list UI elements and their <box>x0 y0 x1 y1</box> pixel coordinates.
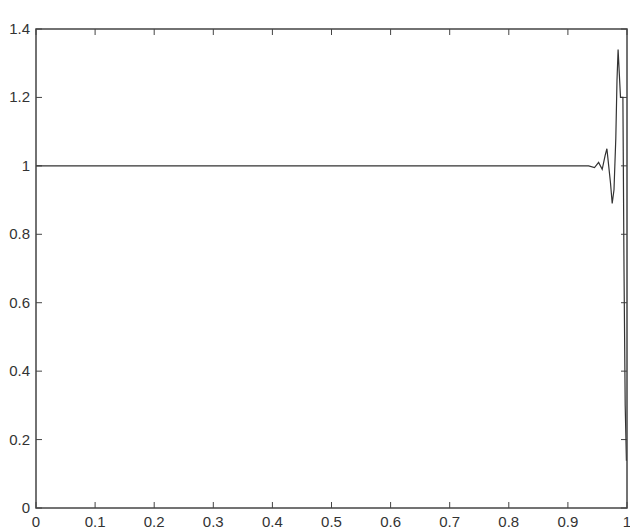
x-tick-label: 0.9 <box>557 513 578 530</box>
y-tick-label: 1.4 <box>9 20 30 37</box>
x-tick-label: 0.7 <box>439 513 460 530</box>
x-tick-label: 0.8 <box>498 513 519 530</box>
axes-box <box>36 29 627 508</box>
x-tick-label: 0.3 <box>203 513 224 530</box>
y-tick-label: 0.8 <box>9 225 30 242</box>
y-tick-label: 0.2 <box>9 431 30 448</box>
x-axis: 00.10.20.30.40.50.60.70.80.91 <box>32 29 630 530</box>
x-tick-label: 1 <box>623 513 630 530</box>
y-tick-label: 0.4 <box>9 362 30 379</box>
data-line <box>36 50 627 461</box>
x-tick-label: 0.1 <box>85 513 106 530</box>
y-axis: 00.20.40.60.811.21.4 <box>9 20 627 516</box>
y-tick-label: 1.2 <box>9 88 30 105</box>
y-tick-label: 0 <box>22 499 30 516</box>
x-tick-label: 0.4 <box>262 513 283 530</box>
x-tick-label: 0 <box>32 513 40 530</box>
x-tick-label: 0.2 <box>144 513 165 530</box>
y-tick-label: 1 <box>22 157 30 174</box>
y-tick-label: 0.6 <box>9 294 30 311</box>
x-tick-label: 0.6 <box>380 513 401 530</box>
line-chart: 00.10.20.30.40.50.60.70.80.91 00.20.40.6… <box>0 0 630 532</box>
x-tick-label: 0.5 <box>321 513 342 530</box>
